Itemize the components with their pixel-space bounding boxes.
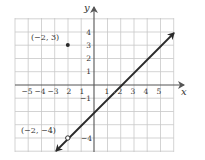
x-tick-label: 2: [67, 87, 72, 96]
y-tick-label: 3: [86, 41, 91, 50]
graph-line: [115, 33, 174, 93]
filled-point: [66, 43, 70, 47]
x-tick-labels: −5 −4 −3 2 1 1 2 3 4 5: [21, 87, 161, 96]
y-tick-label: 2: [86, 54, 91, 63]
coordinate-graph: x y −5 −4 −3 2 1 1 2 3 4 5 4 3 2 1 −1 −4…: [0, 0, 205, 160]
y-axis-label: y: [83, 2, 90, 13]
open-point: [66, 136, 70, 140]
x-axis-label: x: [181, 86, 187, 97]
y-tick-label: −4: [81, 134, 92, 143]
x-tick-label: −4: [34, 87, 45, 96]
y-tick-label: −1: [80, 94, 91, 103]
x-tick-label: −3: [47, 87, 58, 96]
point-label-filled: (−2, 3): [31, 33, 59, 42]
y-tick-label: 4: [86, 28, 91, 37]
x-tick-label: 1: [105, 87, 110, 96]
x-tick-label: 3: [131, 87, 136, 96]
point-label-open: (−2, −4): [21, 126, 56, 135]
y-tick-label: 1: [86, 67, 91, 76]
x-tick-label: 5: [157, 87, 162, 96]
x-tick-label: −5: [21, 87, 32, 96]
x-tick-label: 4: [144, 87, 149, 96]
